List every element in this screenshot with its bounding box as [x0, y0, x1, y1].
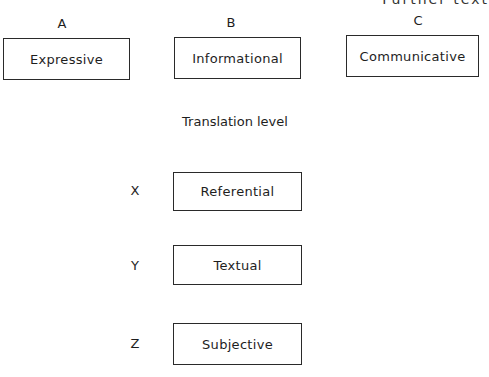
clipped-header-text: Further text — [382, 0, 489, 7]
translation-level-title: Translation level — [170, 114, 300, 129]
box-label: Textual — [213, 258, 261, 273]
letter-z: Z — [128, 336, 142, 351]
box-label: Informational — [192, 51, 283, 66]
box-textual: Textual — [173, 245, 302, 285]
box-label: Communicative — [360, 49, 466, 64]
letter-y: Y — [128, 258, 142, 273]
box-expressive: Expressive — [3, 38, 130, 80]
box-label: Expressive — [30, 52, 103, 67]
letter-a: A — [52, 16, 72, 31]
letter-x: X — [128, 183, 142, 198]
letter-c: C — [408, 13, 428, 28]
letter-b: B — [221, 15, 241, 30]
box-subjective: Subjective — [173, 323, 302, 365]
box-label: Subjective — [202, 337, 273, 352]
box-communicative: Communicative — [346, 35, 479, 77]
box-label: Referential — [201, 184, 275, 199]
box-referential: Referential — [173, 172, 302, 211]
box-informational: Informational — [174, 37, 301, 79]
